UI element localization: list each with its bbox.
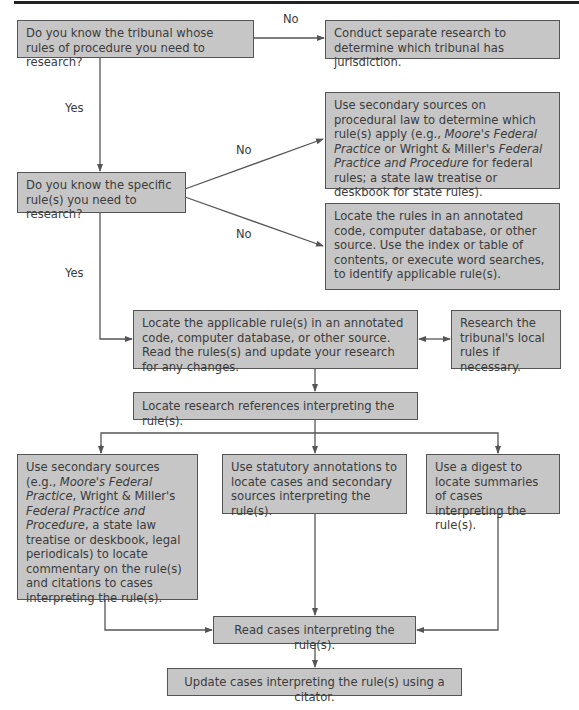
text-part: or Wright & Miller's: [381, 142, 499, 156]
decision-know-specific-rule: Do you know the specific rule(s) you nee…: [17, 172, 186, 213]
edge-label-no-tribunal: No: [283, 12, 299, 26]
step-locate-applicable-rules: Locate the applicable rule(s) in an anno…: [133, 310, 418, 369]
step-conduct-separate-research: Conduct separate research to determine w…: [325, 20, 560, 59]
edge-label-yes-tribunal: Yes: [65, 101, 84, 115]
text-part: , Wright & Miller's: [73, 489, 176, 503]
step-local-rules: Research the tribunal's local rules if n…: [451, 310, 561, 369]
step-statutory-annotations: Use statutory annotations to locate case…: [222, 454, 407, 514]
step-update-cases: Update cases interpreting the rule(s) us…: [167, 668, 462, 696]
step-read-cases: Read cases interpreting the rule(s).: [213, 616, 416, 644]
step-statutory-annotations-text: Use statutory annotations to locate case…: [231, 460, 397, 518]
step-locate-references: Locate research references interpreting …: [133, 392, 418, 420]
step-locate-rules-annotated-text: Locate the rules in an annotated code, c…: [334, 209, 545, 281]
edge-label-yes-rule: Yes: [65, 266, 84, 280]
decision-know-tribunal: Do you know the tribunal whose rules of …: [17, 20, 254, 58]
step-secondary-sources: Use secondary sources (e.g., Moore's Fed…: [17, 454, 198, 600]
step-locate-rules-annotated: Locate the rules in an annotated code, c…: [325, 203, 560, 290]
step-secondary-procedural-sources: Use secondary sources on procedural law …: [325, 92, 560, 189]
step-digest: Use a digest to locate summaries of case…: [426, 454, 560, 514]
edge-label-no-rule-upper: No: [236, 143, 252, 157]
step-locate-applicable-rules-text: Locate the applicable rule(s) in an anno…: [142, 316, 403, 374]
step-local-rules-text: Research the tribunal's local rules if n…: [460, 316, 545, 374]
edge-label-no-rule-lower: No: [236, 227, 252, 241]
